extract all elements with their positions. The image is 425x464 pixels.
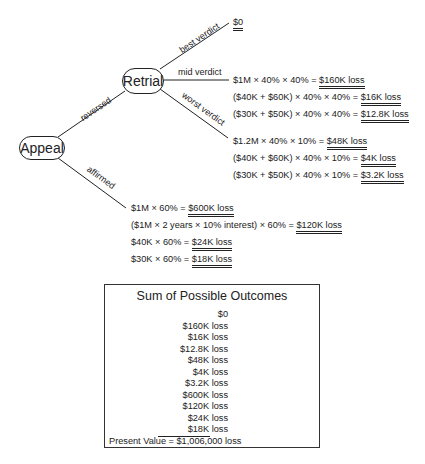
outcome-result: $120K loss: [296, 220, 341, 234]
sum-item: $16K loss: [188, 332, 228, 342]
sum-item: $48K loss: [188, 355, 228, 365]
outcome-result: $160K loss: [319, 75, 364, 89]
affirmed-outcome-row: $30K × 60% = $18K loss: [131, 253, 232, 268]
sum-item: $160K loss: [183, 321, 228, 331]
outcome-result: $4K loss: [361, 153, 396, 167]
sum-item: $12.8K loss: [180, 344, 228, 354]
worst-outcome-row: $1.2M × 40% × 10% = $48K loss: [233, 135, 367, 150]
outcome-result: $18K loss: [192, 254, 232, 268]
edge-label-mid-verdict: mid verdict: [178, 67, 222, 77]
outcome-result: $16K loss: [361, 92, 401, 106]
sum-box-title: Sum of Possible Outcomes: [105, 289, 319, 303]
sum-item: $24K loss: [188, 413, 228, 423]
sum-item: $4K loss: [193, 367, 228, 377]
outcome-result: $12.8K loss: [361, 109, 409, 123]
decision-tree-diagram: Appeal Retrial reversed affirmed best ve…: [0, 0, 425, 464]
outcome-result: $3.2K loss: [361, 170, 404, 184]
sum-item: $3.2K loss: [185, 378, 228, 388]
node-retrial: Retrial: [122, 68, 164, 94]
mid-outcome-row: $1M × 40% × 40% = $160K loss: [233, 74, 365, 89]
node-appeal: Appeal: [19, 136, 65, 160]
outcome-expression: $30K × 60% =: [131, 254, 192, 264]
outcome-expression: $1M × 60% =: [131, 203, 188, 213]
sum-item: $120K loss: [183, 401, 228, 411]
worst-outcome-row: ($40K + $60K) × 40% × 10% = $4K loss: [233, 152, 396, 167]
mid-outcome-row: ($40K + $60K) × 40% × 40% = $16K loss: [233, 91, 401, 106]
present-value: Present Value = $1,006,000 loss: [109, 436, 241, 446]
outcome-expression: $1M × 40% × 40% =: [233, 75, 319, 85]
outcome-expression: ($40K + $60K) × 40% × 10% =: [233, 153, 361, 163]
outcome-expression: ($30K + $50K) × 40% × 40% =: [233, 109, 361, 119]
sum-item: $0: [218, 309, 228, 319]
outcome-expression: ($40K + $60K) × 40% × 40% =: [233, 92, 361, 102]
affirmed-outcome-row: $40K × 60% = $24K loss: [131, 236, 232, 251]
affirmed-outcome-row: $1M × 60% = $600K loss: [131, 202, 234, 217]
sum-item: $18K loss: [188, 424, 228, 434]
outcome-expression: ($30K + $50K) × 40% × 10% =: [233, 170, 361, 180]
outcome-result: $0: [233, 17, 243, 31]
outcome-result: $48K loss: [327, 136, 367, 150]
sum-of-outcomes-box: Sum of Possible Outcomes $0 $160K loss $…: [104, 284, 320, 448]
node-appeal-label: Appeal: [20, 140, 64, 156]
outcome-result: $600K loss: [188, 203, 233, 217]
outcome-expression: $40K × 60% =: [131, 237, 192, 247]
sum-item: $600K loss: [183, 390, 228, 400]
outcome-result: $24K loss: [192, 237, 232, 251]
worst-outcome-row: ($30K + $50K) × 40% × 10% = $3.2K loss: [233, 169, 404, 184]
outcome-expression: $1.2M × 40% × 10% =: [233, 136, 327, 146]
best-verdict-outcome: $0: [233, 16, 243, 31]
outcome-expression: ($1M × 2 years × 10% interest) × 60% =: [131, 220, 296, 230]
affirmed-outcome-row: ($1M × 2 years × 10% interest) × 60% = $…: [131, 219, 342, 234]
mid-outcome-row: ($30K + $50K) × 40% × 40% = $12.8K loss: [233, 108, 409, 123]
node-retrial-label: Retrial: [123, 73, 163, 89]
